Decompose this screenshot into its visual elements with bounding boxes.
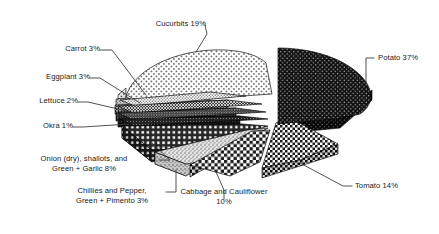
slice-label-potato: Potato 37% [378,53,439,63]
pie-chart-figure: Cucurbits 19% Carrot 3% Eggplant 3% Lett… [0,0,439,234]
slice-label-tomato: Tomato 14% [355,181,439,191]
leader-tomato [300,163,352,186]
leader-potato [366,58,374,84]
slice-label-cucurbits: Cucurbits 19% [30,19,206,29]
slice-label-onion: Onion (dry), shallots, and Green + Garli… [8,154,160,174]
leader-cucurbits [196,25,207,52]
slice-top-potato [278,48,371,124]
slice-label-eggplant: Eggplant 3% [0,72,90,82]
slice-label-okra: Okra 1% [0,121,73,131]
slice-label-cabbage: Cabbage and Cauliflower 10% [162,187,286,207]
slice-label-chillies: Chillies and Pepper, Green + Pimento 3% [56,186,168,206]
slice-label-carrot: Carrot 3% [0,44,100,54]
slice-label-lettuce: Lettuce 2% [0,96,78,106]
